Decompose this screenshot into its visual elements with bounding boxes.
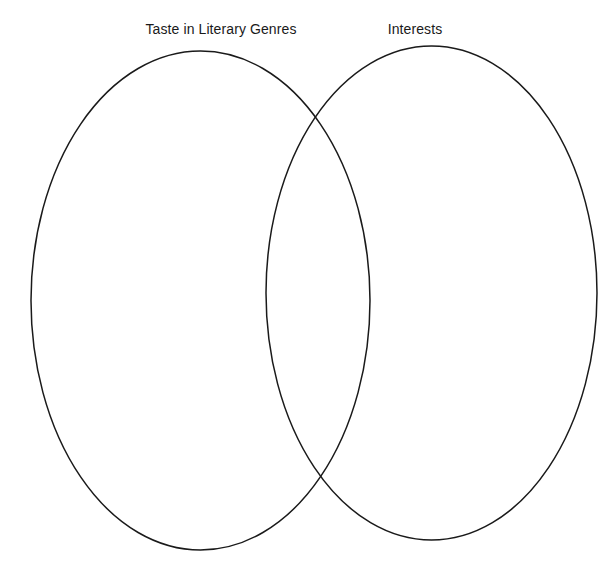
venn-diagram-canvas [0,0,614,561]
venn-ellipse-right[interactable] [266,46,597,540]
venn-label-right: Interests [310,22,520,36]
